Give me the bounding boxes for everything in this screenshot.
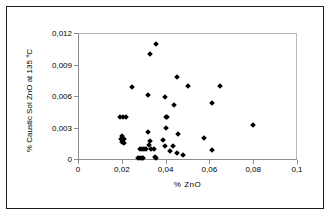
y-tick-label: 0,003 [52,123,72,132]
x-tick-label: 0,02 [114,165,130,174]
scatter-chart: 00,0030,0060,0090,012 00,020,040,060,080… [0,0,332,218]
x-axis-title: % ZnO [78,180,297,189]
x-tick-label: 0,08 [245,165,261,174]
x-tick-mark [297,160,298,164]
y-tick-mark [74,96,78,97]
y-tick-mark [74,128,78,129]
x-tick-mark [166,160,167,164]
y-tick-label: 0,009 [52,60,72,69]
y-axis-title: % Caustic Sol ZnO at 135 °C [25,35,34,167]
plot-area [78,33,297,160]
y-axis-line [78,33,79,160]
x-tick-mark [209,160,210,164]
x-tick-mark [78,160,79,164]
y-tick-label: 0 [68,155,72,164]
y-tick-label: 0,012 [52,29,72,38]
x-tick-label: 0 [76,165,80,174]
y-tick-mark [74,33,78,34]
y-tick-label: 0,006 [52,92,72,101]
x-tick-mark [253,160,254,164]
x-tick-label: 0,04 [158,165,174,174]
x-tick-label: 0,06 [202,165,218,174]
x-axis-line [78,159,297,160]
x-tick-mark [122,160,123,164]
x-tick-label: 0,1 [291,165,302,174]
y-tick-mark [74,65,78,66]
